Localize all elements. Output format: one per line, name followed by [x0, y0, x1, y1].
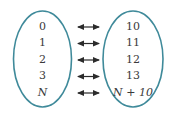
right-item: 12 [113, 53, 153, 67]
right-item: 11 [113, 36, 153, 50]
left-item: 0 [32, 20, 53, 34]
left-item: 1 [32, 36, 53, 50]
left-item: 3 [32, 69, 53, 83]
left-item: 2 [32, 53, 53, 67]
right-item: 13 [113, 69, 153, 83]
bijection-diagram: 0 1 2 3 N 10 11 12 13 N + 10 [0, 0, 169, 113]
right-item: 10 [113, 20, 153, 34]
right-item: N + 10 [113, 86, 153, 100]
arrows [78, 27, 99, 93]
left-item: N [32, 86, 53, 100]
